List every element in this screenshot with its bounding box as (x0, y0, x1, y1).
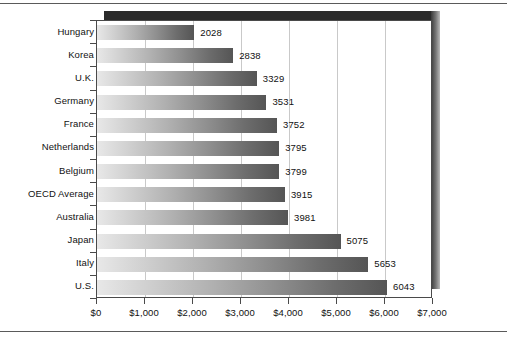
y-axis-tick (90, 113, 96, 114)
bar-row: 3915 (97, 183, 431, 206)
bar-value-label: 3915 (291, 189, 313, 200)
bottom-divider-rule (0, 331, 507, 332)
x-axis-tick (336, 298, 337, 304)
bar-value-label: 5075 (347, 235, 369, 246)
chart-figure: 2028283833293531375237953799391539815075… (0, 0, 507, 338)
x-axis-tick-label: $6,000 (369, 307, 399, 318)
category-label-hungary: Hungary (57, 26, 94, 37)
bar (97, 95, 266, 110)
bar-row: 3981 (97, 206, 431, 229)
bar-value-label: 5653 (374, 258, 396, 269)
bar-row: 3531 (97, 91, 431, 114)
bar-row: 2838 (97, 44, 431, 67)
y-axis-tick (90, 66, 96, 67)
bar (97, 187, 285, 202)
y-axis-tick (90, 20, 96, 21)
y-axis-tick (90, 275, 96, 276)
x-axis-tick (288, 298, 289, 304)
x-axis-tick-label: $0 (91, 307, 102, 318)
x-axis-tick-label: $7,000 (417, 307, 447, 318)
bar-row: 3799 (97, 160, 431, 183)
bar-value-label: 3531 (272, 96, 294, 107)
bar-value-label: 3752 (283, 119, 305, 130)
bar (97, 141, 279, 156)
y-axis-tick (90, 205, 96, 206)
bar-row: 3329 (97, 67, 431, 90)
plot-frame-top-shadow (104, 11, 440, 20)
bar-value-label: 3799 (285, 166, 307, 177)
category-label-japan: Japan (68, 234, 94, 245)
x-axis-tick (96, 298, 97, 304)
category-label-u-s: U.S. (75, 280, 94, 291)
bar-row: 5653 (97, 253, 431, 276)
x-axis-tick-label: $3,000 (225, 307, 255, 318)
bar (97, 257, 368, 272)
plot-frame-right-shadow (431, 11, 440, 289)
x-axis-tick (192, 298, 193, 304)
x-axis-tick-label: $1,000 (129, 307, 159, 318)
bar (97, 234, 341, 249)
bar (97, 48, 233, 63)
bar-value-label: 3329 (263, 73, 285, 84)
x-axis-tick (432, 298, 433, 304)
y-axis-tick (90, 159, 96, 160)
category-label-australia: Australia (56, 211, 94, 222)
bar (97, 164, 279, 179)
bar (97, 280, 387, 295)
x-axis-tick (144, 298, 145, 304)
top-divider-rule (0, 3, 507, 4)
bar-value-label: 6043 (393, 281, 415, 292)
y-axis-tick (90, 90, 96, 91)
bar-row: 3752 (97, 114, 431, 137)
bar-value-label: 2838 (239, 50, 261, 61)
category-label-netherlands: Netherlands (42, 141, 94, 152)
bar-row: 3795 (97, 137, 431, 160)
y-axis-tick (90, 43, 96, 44)
bar-row: 5075 (97, 230, 431, 253)
x-axis-tick-label: $2,000 (177, 307, 207, 318)
category-label-u-k: U.K. (75, 72, 94, 83)
bar-row: 2028 (97, 21, 431, 44)
category-label-oecd-average: OECD Average (28, 188, 94, 199)
y-axis-tick (90, 229, 96, 230)
bar (97, 210, 288, 225)
bar-row: 6043 (97, 276, 431, 299)
plot-area: 2028283833293531375237953799391539815075… (96, 20, 432, 298)
x-axis-tick-label: $5,000 (321, 307, 351, 318)
y-axis-tick (90, 182, 96, 183)
x-axis-tick (240, 298, 241, 304)
bar (97, 25, 194, 40)
y-axis-tick (90, 252, 96, 253)
bar (97, 71, 257, 86)
x-axis-tick (384, 298, 385, 304)
category-label-france: France (64, 118, 94, 129)
bar-value-label: 3795 (285, 142, 307, 153)
bar-value-label: 2028 (200, 27, 222, 38)
x-axis-tick-label: $4,000 (273, 307, 303, 318)
category-label-italy: Italy (76, 257, 94, 268)
category-label-korea: Korea (68, 49, 94, 60)
bar-value-label: 3981 (294, 212, 316, 223)
category-label-germany: Germany (54, 95, 94, 106)
y-axis-tick (90, 136, 96, 137)
bar (97, 118, 277, 133)
category-label-belgium: Belgium (59, 165, 94, 176)
